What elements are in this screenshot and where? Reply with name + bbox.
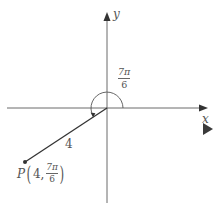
radius-segment bbox=[25, 108, 107, 162]
point-comma: , bbox=[41, 167, 45, 181]
point-name: P bbox=[17, 167, 25, 181]
segment-length-label: 4 bbox=[65, 138, 73, 150]
point-r: 4 bbox=[33, 167, 41, 181]
point-p-label: P ( 4 , 7π 6 ) bbox=[17, 163, 66, 185]
angle-label-denominator: 6 bbox=[121, 80, 127, 90]
angle-label: 7π 6 bbox=[118, 67, 130, 90]
polar-diagram: y x 7π 6 4 P ( 4 , 7π 6 ) bbox=[0, 0, 218, 203]
point-theta: 7π 6 bbox=[46, 163, 58, 185]
y-axis-arrow-icon bbox=[104, 12, 111, 21]
x-axis-arrow-icon bbox=[199, 105, 208, 112]
point-theta-denominator: 6 bbox=[49, 175, 55, 184]
left-paren: ( bbox=[27, 164, 32, 184]
angle-label-numerator: 7π bbox=[118, 67, 130, 77]
point-theta-numerator: 7π bbox=[46, 163, 58, 172]
right-paren: ) bbox=[60, 164, 65, 184]
play-triangle-icon[interactable] bbox=[203, 123, 213, 135]
y-axis-label: y bbox=[113, 8, 120, 20]
